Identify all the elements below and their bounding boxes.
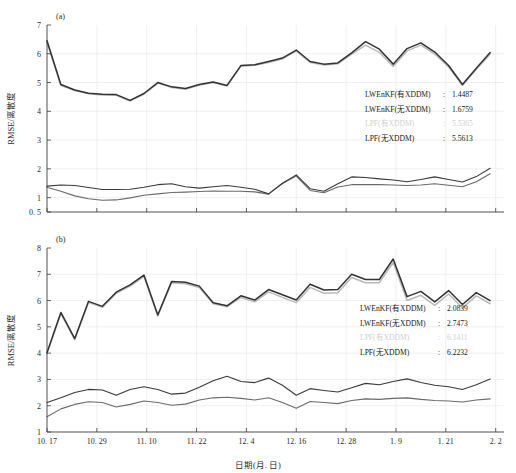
x-tick-label: 1. 21 — [438, 437, 454, 446]
legend-entry-name: LWEnKF(有XDDM) — [360, 303, 426, 313]
y-tick-label: 5 — [37, 323, 41, 332]
y-tick-label: 1 — [37, 194, 41, 203]
legend-entry-name: LWEnKF(有XDDM) — [365, 89, 431, 99]
legend-entry-value: 2.7473 — [447, 319, 468, 328]
x-tick-label: 12. 16 — [286, 437, 306, 446]
y-axis-title: RMSE/离散度 — [6, 314, 16, 367]
legend-entry-separator: : — [443, 90, 445, 99]
legend-entry-value: 6.1411 — [447, 333, 468, 342]
legend-entry-separator: : — [443, 119, 445, 128]
legend-entry-name: LPF(无XDDM) — [360, 348, 410, 357]
y-tick-label: 6 — [37, 297, 41, 306]
legend-entry-value: 2.0839 — [447, 304, 468, 313]
x-tick-label: 12. 28 — [336, 437, 356, 446]
legend-entry-separator: : — [438, 304, 440, 313]
y-tick-label: 8 — [37, 244, 41, 253]
y-tick-label: 4 — [37, 349, 41, 358]
legend-entry-name: LWEnKF(无XDDM) — [365, 105, 431, 114]
legend-entry-name: LPF(有XDDM) — [360, 332, 410, 342]
x-tick-label: 12. 4 — [238, 437, 254, 446]
y-tick-label: 6 — [37, 50, 41, 59]
y-tick-label: 2 — [37, 402, 41, 411]
legend-entry-separator: : — [443, 134, 445, 143]
x-tick-label: 2. 2 — [490, 437, 502, 446]
x-tick-label: 10. 29 — [87, 437, 107, 446]
legend-entry-value: 5.5365 — [452, 119, 473, 128]
figure-background — [0, 0, 516, 473]
legend-entry-value: 1.4487 — [452, 90, 473, 99]
dual-panel-line-chart: 0. 51234567RMSE/离散度(a)LWEnKF(有XDDM):1.44… — [0, 0, 516, 473]
y-tick-label: 3 — [37, 375, 41, 384]
legend-entry-name: LPF(有XDDM) — [365, 118, 415, 128]
legend-entry-name: LWEnKF(无XDDM) — [360, 319, 426, 328]
legend-entry-value: 6.2232 — [447, 348, 468, 357]
x-tick-label: 11. 22 — [187, 437, 207, 446]
x-tick-label: 11. 10 — [137, 437, 157, 446]
legend-entry-name: LPF(无XDDM) — [365, 134, 415, 143]
y-tick-label: 1 — [37, 428, 41, 437]
x-tick-label: 10. 17 — [37, 437, 57, 446]
y-tick-label: 5 — [37, 79, 41, 88]
legend-entry-separator: : — [443, 105, 445, 114]
legend-entry-separator: : — [438, 348, 440, 357]
y-axis-title: RMSE/离散度 — [6, 92, 16, 145]
y-tick-label: 2 — [37, 165, 41, 174]
y-tick-label: 3 — [37, 136, 41, 145]
figure-container: 0. 51234567RMSE/离散度(a)LWEnKF(有XDDM):1.44… — [0, 0, 516, 473]
panel-b-label: (b) — [56, 235, 66, 244]
x-tick-label: 1. 9 — [390, 437, 402, 446]
y-tick-label: 0. 5 — [29, 208, 41, 217]
panel-a-label: (a) — [56, 12, 65, 21]
legend-entry-value: 1.6759 — [452, 105, 473, 114]
y-tick-label: 4 — [37, 107, 41, 116]
legend-entry-value: 5.5613 — [452, 134, 473, 143]
y-tick-label: 7 — [37, 21, 41, 30]
legend-entry-separator: : — [438, 333, 440, 342]
legend-entry-separator: : — [438, 319, 440, 328]
y-tick-label: 7 — [37, 270, 41, 279]
x-axis-title: 日期(月. 日) — [235, 460, 281, 470]
